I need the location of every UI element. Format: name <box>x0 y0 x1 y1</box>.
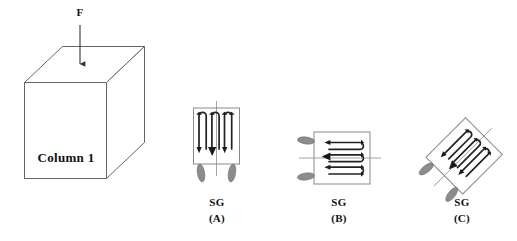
figure-canvas: F Column 1 <box>0 0 517 241</box>
gauge-c-id: (C) <box>436 212 488 224</box>
gauge-c-centerline <box>434 128 492 186</box>
gauge-c-name: SG <box>436 196 488 208</box>
